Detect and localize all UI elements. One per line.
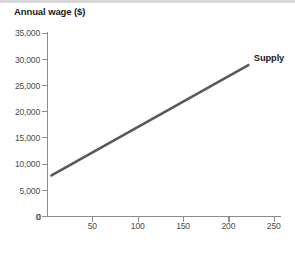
y-tick-label-35000: 35,000 [0, 28, 40, 38]
y-tick-mark [42, 216, 47, 217]
y-tick-label-15000: 15,000 [0, 133, 40, 143]
y-tick-mark [42, 190, 47, 191]
y-tick-mark [42, 111, 47, 112]
y-tick-mark [42, 85, 47, 86]
supply-curve-label: Supply [254, 53, 284, 63]
y-tick-label-30000: 30,000 [0, 55, 40, 65]
y-tick-mark [42, 59, 47, 60]
y-tick-mark [42, 33, 47, 34]
y-tick-label-10000: 10,000 [0, 159, 40, 169]
x-tick-label-150: 150 [163, 221, 203, 231]
y-tick-mark [42, 137, 47, 138]
x-tick-label-50: 50 [72, 221, 112, 231]
x-tick-label-200: 200 [208, 221, 248, 231]
y-tick-label-20000: 20,000 [0, 107, 40, 117]
y-tick-label-5000: 5,000 [0, 186, 40, 196]
x-tick-label-0: 0 [19, 212, 41, 222]
y-axis-title: Annual wage ($) [14, 6, 85, 17]
y-axis-line [47, 32, 48, 217]
supply-curve-line [52, 65, 249, 175]
x-tick-label-100: 100 [118, 221, 158, 231]
x-axis-line [47, 216, 281, 217]
supply-curve [0, 0, 295, 257]
x-tick-label-250: 250 [254, 221, 294, 231]
y-tick-mark [42, 164, 47, 165]
supply-curve-chart: Annual wage ($) 35,000 30,000 25,000 20,… [0, 0, 295, 257]
y-tick-label-25000: 25,000 [0, 81, 40, 91]
top-edge-strip [0, 0, 295, 3]
